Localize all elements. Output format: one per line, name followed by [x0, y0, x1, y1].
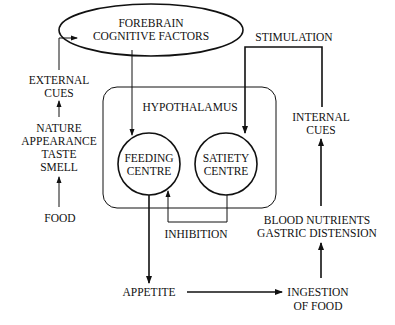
satiety-centre-node: SATIETY CENTRE [195, 133, 257, 195]
internal-cues-node: INTERNAL CUES [292, 111, 350, 136]
feeding-centre-line2: CENTRE [127, 165, 172, 177]
internal-cues-line2: CUES [306, 124, 335, 136]
food-properties-line1: NATURE [36, 122, 81, 134]
hypothalamus-node: HYPOTHALAMUS [103, 87, 276, 208]
ingestion-node: INGESTION OF FOOD [287, 286, 349, 312]
forebrain-label-line2: COGNITIVE FACTORS [93, 30, 209, 42]
blood-nutrients-node: BLOOD NUTRIENTS GASTRIC DISTENSION [257, 214, 377, 239]
blood-nutrients-line2: GASTRIC DISTENSION [257, 227, 377, 239]
external-cues-line1: EXTERNAL [29, 74, 90, 86]
food-properties-line3: TASTE [42, 148, 77, 160]
stimulation-label: STIMULATION [255, 31, 333, 43]
food-properties-line4: SMELL [40, 161, 78, 173]
feeding-control-diagram: FOREBRAIN COGNITIVE FACTORS EXTERNAL CUE… [0, 0, 395, 325]
external-cues-node: EXTERNAL CUES [29, 74, 90, 99]
food-label: FOOD [44, 212, 75, 224]
internal-cues-line1: INTERNAL [292, 111, 350, 123]
inhibition-label: INHIBITION [164, 228, 228, 240]
appetite-label: APPETITE [122, 286, 175, 298]
forebrain-node: FOREBRAIN COGNITIVE FACTORS [59, 4, 243, 56]
blood-nutrients-line1: BLOOD NUTRIENTS [264, 214, 370, 226]
satiety-centre-line1: SATIETY [203, 152, 250, 164]
external-cues-to-forebrain-arrow [59, 38, 77, 70]
external-cues-line2: CUES [44, 87, 73, 99]
hypothalamus-label: HYPOTHALAMUS [142, 101, 237, 113]
forebrain-label-line1: FOREBRAIN [118, 17, 184, 29]
inhibition-arrow [168, 191, 227, 222]
food-properties-node: NATURE APPEARANCE TASTE SMELL [21, 122, 96, 173]
feeding-centre-circle [118, 133, 180, 195]
feeding-centre-node: FEEDING CENTRE [118, 133, 180, 195]
satiety-centre-circle [195, 133, 257, 195]
ingestion-line2: OF FOOD [294, 300, 343, 312]
ingestion-line1: INGESTION [287, 286, 349, 298]
satiety-centre-line2: CENTRE [204, 165, 249, 177]
feeding-centre-line1: FEEDING [124, 152, 173, 164]
food-properties-line2: APPEARANCE [21, 135, 96, 147]
